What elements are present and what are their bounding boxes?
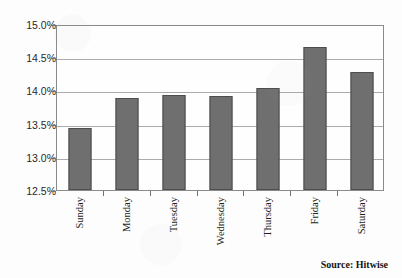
bar-wednesday[interactable] (209, 96, 232, 190)
y-axis-tick-label: 14.5% (0, 52, 56, 64)
y-axis-tick-mark (51, 191, 56, 192)
x-axis-label-slot: Saturday (337, 197, 384, 265)
x-axis-tick-label: Thursday (261, 197, 272, 237)
x-axis-tick-label: Friday (308, 197, 319, 224)
bar-slot (104, 26, 151, 190)
x-axis-tick-mark (103, 191, 104, 196)
y-axis-tick-mark (51, 25, 56, 26)
bar-thursday[interactable] (256, 88, 279, 190)
x-axis-label-slot: Wednesday (197, 197, 244, 265)
bar-slot (57, 26, 104, 190)
y-axis-tick-label: 13.5% (0, 119, 56, 131)
y-axis-tick-mark (51, 58, 56, 59)
x-axis-tick-label: Sunday (74, 197, 85, 229)
plot-area (56, 25, 384, 191)
x-axis-label-slot: Sunday (56, 197, 103, 265)
x-axis-tick-label: Tuesday (168, 197, 179, 232)
x-axis-tick-mark (290, 191, 291, 196)
bar-slot (244, 26, 291, 190)
x-axis-tick-mark (337, 191, 338, 196)
bar-saturday[interactable] (350, 72, 373, 190)
bar-slot (291, 26, 338, 190)
y-axis-tick-mark (51, 125, 56, 126)
bars-layer (57, 26, 383, 190)
x-axis-tick-mark (150, 191, 151, 196)
x-axis-tick-label: Wednesday (214, 197, 225, 245)
y-axis-tick-label: 15.0% (0, 19, 56, 31)
x-axis-label-slot: Tuesday (150, 197, 197, 265)
y-axis-tick-label: 12.5% (0, 185, 56, 197)
bar-chart: 12.5%13.0%13.5%14.0%14.5%15.0% SundayMon… (0, 0, 402, 278)
x-axis-tick-mark (243, 191, 244, 196)
x-axis-label-slot: Friday (290, 197, 337, 265)
x-axis-tick-mark (197, 191, 198, 196)
y-axis-tick-label: 14.0% (0, 85, 56, 97)
bar-tuesday[interactable] (163, 95, 186, 190)
x-axis-label-slot: Monday (103, 197, 150, 265)
x-axis-label-slot: Thursday (243, 197, 290, 265)
bar-slot (198, 26, 245, 190)
x-axis-tick-label: Monday (121, 197, 132, 232)
bar-friday[interactable] (303, 47, 326, 190)
bar-monday[interactable] (116, 98, 139, 190)
y-axis-tick-mark (51, 158, 56, 159)
bar-slot (338, 26, 385, 190)
source-note: Source: Hitwise (321, 259, 388, 270)
bar-slot (151, 26, 198, 190)
y-axis-tick-label: 13.0% (0, 152, 56, 164)
x-axis-tick-label: Saturday (355, 197, 366, 234)
bar-sunday[interactable] (69, 128, 92, 190)
y-axis-tick-mark (51, 91, 56, 92)
